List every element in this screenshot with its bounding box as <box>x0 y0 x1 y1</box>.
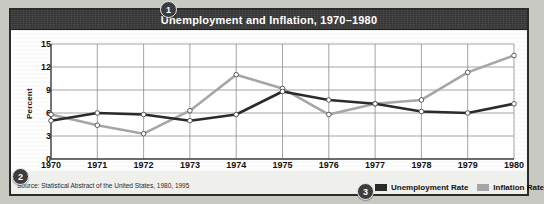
callout-badge-3: 3 <box>357 183 374 200</box>
x-tick-label: 1970 <box>41 160 61 170</box>
source-note-text: Source: Statistical Abstract of the Unit… <box>17 182 189 189</box>
x-tick-label: 1979 <box>458 160 478 170</box>
x-tick-label: 1972 <box>134 160 154 170</box>
x-tick-label: 1971 <box>87 160 107 170</box>
callout-badge-1: 1 <box>160 1 177 18</box>
x-tick-label: 1975 <box>272 160 292 170</box>
legend-swatch-inflation <box>477 184 489 191</box>
x-tick-label: 1977 <box>365 160 385 170</box>
page-title: Unemployment and Inflation, 1970–1980 <box>161 14 377 26</box>
plot-area: Percent 03691215 <box>11 31 527 171</box>
callout-badge-2: 2 <box>12 168 29 185</box>
legend-label-inflation: Inflation Rate <box>493 183 544 192</box>
legend-item-inflation: Inflation Rate <box>477 183 544 192</box>
chart-legend: Unemployment Rate Inflation Rate <box>375 183 544 192</box>
legend-label-unemployment: Unemployment Rate <box>391 183 468 192</box>
source-note: Source: Statistical Abstract of the Unit… <box>17 182 189 189</box>
x-tick-label: 1978 <box>411 160 431 170</box>
x-tick-label: 1973 <box>180 160 200 170</box>
x-tick-label: 1976 <box>319 160 339 170</box>
x-axis-ticks: 1970197119721973197419751976197719781979… <box>11 160 527 174</box>
x-tick-label: 1980 <box>504 160 524 170</box>
x-tick-label: 1974 <box>226 160 246 170</box>
legend-swatch-unemployment <box>375 184 387 191</box>
legend-item-unemployment: Unemployment Rate <box>375 183 468 192</box>
line-chart-canvas <box>11 31 527 171</box>
chart-title-bar: Unemployment and Inflation, 1970–1980 <box>11 10 527 30</box>
